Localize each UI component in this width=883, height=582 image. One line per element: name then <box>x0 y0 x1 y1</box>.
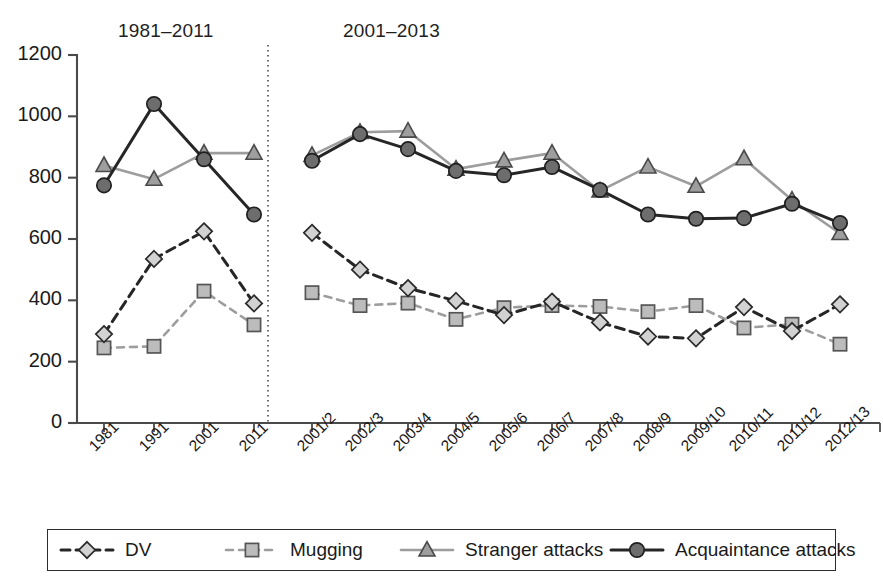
data-point-diamond <box>448 293 464 309</box>
data-point-diamond <box>736 299 752 315</box>
series-acquaintance-attacks <box>97 97 261 222</box>
data-point-square <box>245 543 258 556</box>
data-point-square <box>247 318 260 331</box>
data-point-circle <box>353 127 367 141</box>
data-point-diamond <box>832 296 848 312</box>
series-stranger-attacks <box>304 123 848 240</box>
data-point-circle <box>785 197 799 211</box>
data-point-diamond <box>592 314 608 330</box>
data-point-circle <box>247 207 261 221</box>
series-layer <box>96 97 848 355</box>
data-point-square <box>641 305 654 318</box>
legend-label: Stranger attacks <box>465 539 603 561</box>
data-point-circle <box>197 152 211 166</box>
y-axis-tick-label: 400 <box>0 287 62 310</box>
data-point-triangle <box>400 123 416 137</box>
data-point-diamond <box>640 328 656 344</box>
series-mugging <box>305 286 846 351</box>
data-point-circle <box>97 178 111 192</box>
data-point-square <box>197 285 210 298</box>
data-point-circle <box>630 543 644 557</box>
data-point-square <box>449 313 462 326</box>
data-point-circle <box>147 97 161 111</box>
data-point-square <box>401 296 414 309</box>
data-point-circle <box>593 183 607 197</box>
data-point-square <box>689 299 702 312</box>
data-point-square <box>353 299 366 312</box>
axes-layer <box>68 54 880 432</box>
legend-item-mugging[interactable]: Mugging <box>223 539 363 561</box>
data-point-square <box>833 338 846 351</box>
legend-symbol-circle-icon <box>608 540 666 560</box>
y-axis-tick-label: 0 <box>0 410 62 433</box>
data-point-circle <box>497 168 511 182</box>
data-point-triangle <box>640 159 656 173</box>
data-point-triangle <box>544 145 560 159</box>
y-axis-tick-label: 800 <box>0 165 62 188</box>
y-axis-tick-label: 600 <box>0 226 62 249</box>
data-point-triangle <box>96 157 112 171</box>
data-point-triangle <box>736 150 752 164</box>
plot-area: 120010008006004002000 198119912001201120… <box>0 0 883 582</box>
data-point-diamond <box>146 251 162 267</box>
series-dv <box>96 223 262 342</box>
legend-symbol-square-icon <box>223 540 281 560</box>
legend-label: Mugging <box>290 539 363 561</box>
data-point-circle <box>641 207 655 221</box>
series-dv <box>304 225 848 347</box>
legend-item-acquaintance-attacks[interactable]: Acquaintance attacks <box>608 539 856 561</box>
data-point-diamond <box>400 280 416 296</box>
series-mugging <box>97 285 260 355</box>
data-point-circle <box>737 211 751 225</box>
legend-symbol-diamond-icon <box>58 540 116 560</box>
data-point-circle <box>305 154 319 168</box>
data-point-circle <box>449 164 463 178</box>
data-point-circle <box>401 142 415 156</box>
data-point-square <box>593 300 606 313</box>
data-point-circle <box>689 212 703 226</box>
data-point-diamond <box>96 326 112 342</box>
data-point-square <box>147 340 160 353</box>
data-point-diamond <box>79 542 95 558</box>
chart-legend: DVMuggingStranger attacksAcquaintance at… <box>47 529 836 571</box>
chart-page: 1981–2011 2001–2013 12001000800600400200… <box>0 0 883 582</box>
data-point-circle <box>833 216 847 230</box>
data-point-square <box>737 321 750 334</box>
y-axis-tick-label: 200 <box>0 349 62 372</box>
y-axis-tick-label: 1200 <box>0 42 62 65</box>
legend-label: DV <box>125 539 151 561</box>
series-stranger-attacks <box>96 145 262 186</box>
legend-label: Acquaintance attacks <box>675 539 856 561</box>
y-axis-tick-label: 1000 <box>0 103 62 126</box>
legend-item-dv[interactable]: DV <box>58 539 151 561</box>
data-point-circle <box>545 160 559 174</box>
chart-svg <box>0 0 883 582</box>
data-point-diamond <box>688 330 704 346</box>
legend-symbol-triangle-icon <box>398 540 456 560</box>
data-point-square <box>305 286 318 299</box>
legend-item-stranger-attacks[interactable]: Stranger attacks <box>398 539 603 561</box>
